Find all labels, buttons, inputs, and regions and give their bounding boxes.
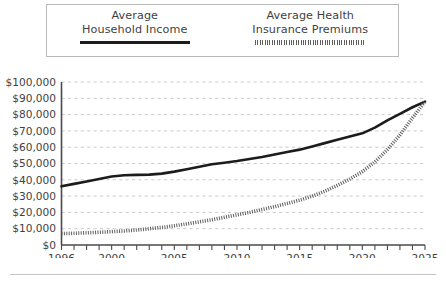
legend-label-line2: Household Income (82, 23, 188, 37)
y-axis-tick-label: $70,000 (12, 125, 56, 137)
legend-item-household-income: Average Household Income (47, 5, 223, 56)
y-axis-tick-label: $40,000 (12, 174, 56, 186)
legend-swatch-wrap-income (80, 39, 190, 45)
x-axis-tick-labels: 1996200020052010201520202025 (48, 252, 438, 258)
y-axis-tick-label: $80,000 (12, 108, 56, 120)
x-axis-tick-label: 2015 (286, 252, 313, 258)
y-axis-tick-label: $50,000 (12, 157, 56, 169)
x-axis-tick-label: 2010 (223, 252, 250, 258)
chart-container: Average Household Income Average Health … (0, 0, 446, 285)
x-axis-tick-label: 1996 (48, 252, 75, 258)
legend-item-health-premiums: Average Health Insurance Premiums (223, 5, 399, 56)
legend-label-line1: Average (111, 9, 158, 23)
dotted-line-swatch-icon (255, 40, 365, 45)
x-axis-tick-label: 2020 (349, 252, 376, 258)
y-axis-tick-label: $100,000 (5, 76, 56, 88)
x-axis-tick-label: 2005 (161, 252, 188, 258)
x-axis-tick-label: 2000 (98, 252, 125, 258)
y-axis-tick-label: $0 (43, 239, 57, 251)
legend-swatch-wrap-premium (255, 39, 365, 45)
y-axis-tick-labels: $100,000$90,000$80,000$70,000$60,000$50,… (5, 76, 56, 251)
y-axis-tick-label: $30,000 (12, 190, 56, 202)
chart-legend: Average Household Income Average Health … (46, 4, 399, 57)
plot-area: $100,000$90,000$80,000$70,000$60,000$50,… (0, 58, 446, 258)
legend-label-line2: Insurance Premiums (252, 23, 368, 37)
y-axis-tick-label: $90,000 (12, 92, 56, 104)
bottom-divider (10, 274, 436, 275)
legend-label-line1: Average Health (266, 9, 354, 23)
series-line-health-premiums (62, 102, 426, 234)
gridlines (62, 82, 426, 229)
y-axis-tick-label: $20,000 (12, 206, 56, 218)
y-axis-tick-label: $60,000 (12, 141, 56, 153)
y-axis-tick-label: $10,000 (12, 222, 56, 234)
solid-line-swatch-icon (80, 41, 190, 44)
x-axis-tick-label: 2025 (412, 252, 439, 258)
